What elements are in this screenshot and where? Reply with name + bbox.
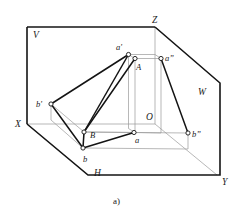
axis-label-y: Y <box>222 178 227 188</box>
plane-label-v: V <box>33 31 39 41</box>
marker-b-dprime <box>186 131 190 135</box>
point-label-a-prime: a' <box>116 43 122 52</box>
marker-b-prime <box>49 102 53 106</box>
point-label-a-dprime: a” <box>165 54 174 63</box>
figure-container: V W H X Y Z O a' A a” a b' B b” b a) <box>0 0 235 219</box>
marker-a-prime <box>126 52 130 56</box>
marker-A <box>133 56 137 60</box>
point-label-A: A <box>136 63 141 72</box>
w-plane-outline <box>155 27 220 175</box>
gl-b-to-bdprime <box>83 148 188 149</box>
segment-A-B <box>84 59 135 133</box>
point-label-b-prime: b' <box>36 100 42 109</box>
segment-aprime-B <box>84 55 129 133</box>
marker-b <box>81 146 85 150</box>
figure-caption: a) <box>113 196 120 206</box>
marker-B <box>82 130 86 134</box>
segment-bprime-b <box>51 104 83 148</box>
marker-a <box>132 130 136 134</box>
point-label-b: b <box>83 155 87 164</box>
point-label-a: a <box>135 136 139 145</box>
point-label-B: B <box>90 131 95 140</box>
segment-adprime-bdprime <box>161 59 188 134</box>
point-label-b-dprime: b” <box>192 130 201 139</box>
axis-label-z: Z <box>152 16 157 26</box>
plane-label-w: W <box>198 88 206 98</box>
axis-label-x: X <box>15 120 21 130</box>
axis-label-o: O <box>146 113 153 123</box>
marker-a-dprime <box>159 56 163 60</box>
segment-aprime-bprime <box>51 55 129 105</box>
plane-label-h: H <box>94 169 101 179</box>
